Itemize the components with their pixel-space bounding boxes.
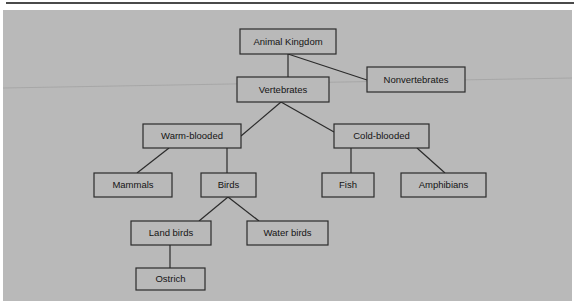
node-cold-blooded[interactable]: Cold-blooded	[334, 124, 429, 148]
node-label-animal-kingdom: Animal Kingdom	[253, 36, 322, 47]
screenshot-page: Animal KingdomNonvertebratesVertebratesW…	[0, 0, 580, 301]
node-mammals[interactable]: Mammals	[94, 173, 172, 197]
edge-vertebrates-coldblooded	[281, 102, 334, 132]
node-warm-blooded[interactable]: Warm-blooded	[143, 124, 241, 148]
node-label-warm-blooded: Warm-blooded	[161, 130, 223, 141]
node-animal-kingdom[interactable]: Animal Kingdom	[240, 29, 336, 54]
node-amphibians[interactable]: Amphibians	[401, 173, 486, 197]
node-label-ostrich: Ostrich	[155, 273, 185, 284]
node-label-birds: Birds	[218, 179, 240, 190]
node-birds[interactable]: Birds	[201, 173, 256, 197]
node-ostrich[interactable]: Ostrich	[136, 268, 205, 290]
edge-animalkingdom-nonvertebrates	[288, 54, 367, 80]
node-nonvertebrates[interactable]: Nonvertebrates	[367, 67, 465, 92]
node-label-amphibians: Amphibians	[419, 179, 469, 190]
node-label-nonvertebrates: Nonvertebrates	[384, 74, 449, 85]
node-label-vertebrates: Vertebrates	[259, 84, 308, 95]
scanned-paper: Animal KingdomNonvertebratesVertebratesW…	[3, 10, 572, 301]
edge-coldblooded-amphibians	[417, 148, 445, 173]
animal-kingdom-tree-diagram: Animal KingdomNonvertebratesVertebratesW…	[3, 10, 572, 301]
node-fish[interactable]: Fish	[322, 173, 374, 197]
node-label-water-birds: Water birds	[263, 227, 311, 238]
page-top-rule	[6, 2, 574, 4]
node-label-cold-blooded: Cold-blooded	[353, 130, 410, 141]
node-label-land-birds: Land birds	[149, 227, 194, 238]
node-vertebrates[interactable]: Vertebrates	[237, 77, 329, 102]
node-label-fish: Fish	[339, 179, 357, 190]
edge-birds-waterbirds	[228, 197, 259, 221]
node-land-birds[interactable]: Land birds	[131, 221, 211, 245]
node-water-birds[interactable]: Water birds	[247, 221, 328, 245]
diagram-nodes-layer: Animal KingdomNonvertebratesVertebratesW…	[94, 29, 486, 290]
edge-vertebrates-warmblooded	[241, 102, 281, 136]
node-label-mammals: Mammals	[112, 179, 153, 190]
edge-warmblooded-mammals	[137, 148, 169, 173]
edge-birds-landbirds	[199, 197, 228, 221]
